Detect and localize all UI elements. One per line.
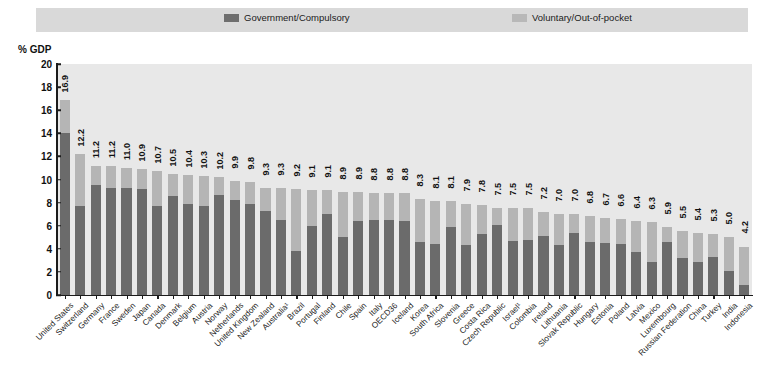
bar-value-label: 9.1	[307, 165, 317, 178]
bar-segment-government	[647, 262, 657, 295]
bar-column[interactable]	[152, 64, 162, 295]
bar-segment-voluntary	[662, 227, 672, 242]
bar-value-label: 7.8	[477, 180, 487, 193]
y-axis-tick-label: 8	[32, 197, 52, 208]
x-axis-tick-mark	[111, 295, 112, 299]
bar-column[interactable]	[538, 64, 548, 295]
bar-value-label: 5.5	[678, 206, 688, 219]
x-axis-tick-mark	[713, 295, 714, 299]
bar-column[interactable]	[569, 64, 579, 295]
legend-item-government: Government/Compulsory	[224, 12, 350, 23]
y-axis-tick-mark	[56, 202, 61, 204]
bar-segment-government	[569, 233, 579, 295]
bar-segment-voluntary	[137, 169, 147, 189]
bar-segment-voluntary	[60, 100, 70, 133]
bar-segment-government	[199, 206, 209, 295]
bar-segment-voluntary	[415, 199, 425, 242]
x-axis-tick-mark	[559, 295, 560, 299]
x-axis-tick-mark	[528, 295, 529, 299]
bar-column[interactable]	[121, 64, 131, 295]
bar-segment-government	[724, 271, 734, 295]
bar-value-label: 9.3	[276, 163, 286, 176]
x-axis-tick-mark	[451, 295, 452, 299]
y-axis-tick-mark	[56, 109, 61, 111]
bar-column[interactable]	[554, 64, 564, 295]
bar-segment-voluntary	[430, 201, 440, 244]
bar-segment-voluntary	[585, 216, 595, 241]
bar-value-label: 7.5	[524, 183, 534, 196]
bar-column[interactable]	[137, 64, 147, 295]
legend-label-voluntary: Voluntary/Out-of-pocket	[532, 12, 632, 23]
bar-column[interactable]	[75, 64, 85, 295]
bar-column[interactable]	[677, 64, 687, 295]
bar-column[interactable]	[739, 64, 749, 295]
bar-column[interactable]	[631, 64, 641, 295]
bar-segment-voluntary	[384, 193, 394, 220]
bar-segment-government	[631, 252, 641, 295]
bar-column[interactable]	[647, 64, 657, 295]
x-axis-tick-mark	[544, 295, 545, 299]
bar-value-label: 9.3	[261, 163, 271, 176]
y-axis-tick-mark	[56, 179, 61, 181]
bar-column[interactable]	[91, 64, 101, 295]
bar-column[interactable]	[214, 64, 224, 295]
bar-column[interactable]	[199, 64, 209, 295]
y-axis-tick-label: 4	[32, 243, 52, 254]
legend-label-government: Government/Compulsory	[244, 12, 350, 23]
bar-column[interactable]	[724, 64, 734, 295]
bar-value-label: 7.9	[462, 179, 472, 192]
bar-column[interactable]	[307, 64, 317, 295]
bar-column[interactable]	[183, 64, 193, 295]
x-axis-tick-mark	[219, 295, 220, 299]
bar-column[interactable]	[508, 64, 518, 295]
bar-value-label: 5.3	[709, 209, 719, 222]
bar-segment-government	[693, 262, 703, 295]
x-axis-tick-mark	[235, 295, 236, 299]
y-axis-tick-label: 14	[32, 128, 52, 139]
y-axis-tick-mark	[56, 248, 61, 250]
bar-column[interactable]	[600, 64, 610, 295]
bar-column[interactable]	[693, 64, 703, 295]
bar-segment-voluntary	[461, 204, 471, 246]
bar-segment-voluntary	[168, 174, 178, 196]
bar-column[interactable]	[276, 64, 286, 295]
bar-column[interactable]	[585, 64, 595, 295]
x-axis-tick-mark	[327, 295, 328, 299]
bar-column[interactable]	[291, 64, 301, 295]
bar-segment-voluntary	[708, 234, 718, 257]
x-axis-tick-mark	[127, 295, 128, 299]
bar-column[interactable]	[616, 64, 626, 295]
x-axis-tick-mark	[157, 295, 158, 299]
bar-segment-government	[230, 200, 240, 295]
bar-column[interactable]	[492, 64, 502, 295]
bar-column[interactable]	[245, 64, 255, 295]
bar-segment-voluntary	[260, 188, 270, 211]
bar-column[interactable]	[106, 64, 116, 295]
bar-segment-voluntary	[230, 181, 240, 201]
bar-value-label: 8.9	[338, 167, 348, 180]
y-axis-tick-mark	[56, 294, 61, 296]
bar-column[interactable]	[260, 64, 270, 295]
bar-segment-government	[60, 133, 70, 295]
bar-column[interactable]	[230, 64, 240, 295]
bar-segment-voluntary	[492, 208, 502, 224]
bar-value-label: 10.4	[184, 150, 194, 168]
bar-segment-voluntary	[538, 212, 548, 236]
bar-segment-government	[260, 211, 270, 295]
bar-column[interactable]	[708, 64, 718, 295]
bar-column[interactable]	[60, 64, 70, 295]
bar-column[interactable]	[322, 64, 332, 295]
bar-segment-voluntary	[214, 177, 224, 194]
x-axis-tick-mark	[621, 295, 622, 299]
bar-column[interactable]	[523, 64, 533, 295]
bar-value-label: 6.8	[585, 191, 595, 204]
bar-column[interactable]	[168, 64, 178, 295]
bar-column[interactable]	[662, 64, 672, 295]
bar-value-label: 4.2	[740, 221, 750, 234]
bar-segment-government	[91, 185, 101, 295]
bar-value-label: 5.9	[663, 202, 673, 215]
bar-segment-voluntary	[307, 190, 317, 226]
bar-segment-voluntary	[569, 214, 579, 232]
bar-segment-government	[430, 244, 440, 295]
bar-segment-voluntary	[338, 192, 348, 237]
